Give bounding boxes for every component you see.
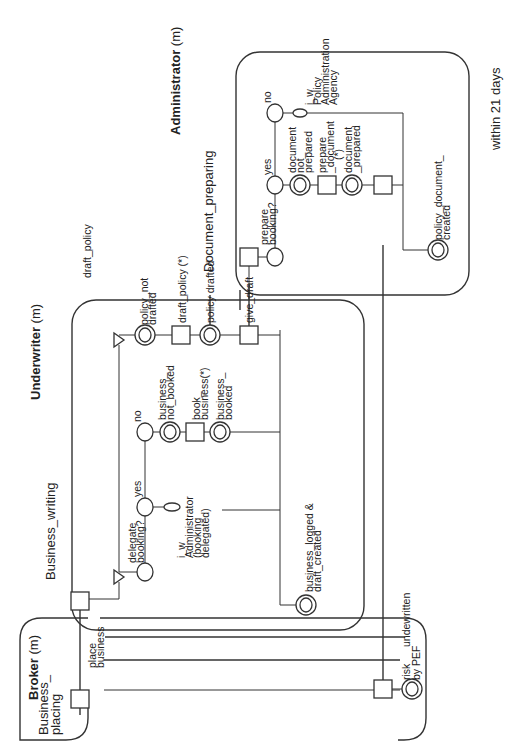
labels: Business_ placing Broker (m) place busin… (26, 27, 503, 735)
event-inner (300, 598, 312, 612)
give-draft-task[interactable] (240, 326, 258, 344)
draft-policy-label: draft_policy (*) (176, 255, 188, 323)
risk-label-2: by PEF (410, 646, 422, 680)
admin-iw-4: Agency (327, 69, 339, 105)
place-business-label-2: business (94, 627, 106, 668)
event-inner (204, 328, 216, 342)
pdc-2: created (440, 205, 452, 240)
bnb-2: not_booked (164, 365, 176, 420)
no-gateway[interactable] (137, 423, 153, 441)
prepare-2: booking? (266, 202, 278, 245)
delegate-label-2: booking? (134, 520, 146, 563)
dnp-3: prepared (302, 131, 314, 173)
risk-underwritten-event-inner (406, 682, 418, 696)
iw-policy-agency-event[interactable] (293, 109, 307, 117)
place-business-task[interactable] (71, 690, 89, 708)
place-business-task-2[interactable] (71, 592, 89, 610)
give-draft-label: give_draft (243, 277, 255, 323)
broker-role-title: Broker (m) (26, 635, 41, 700)
event-inner (214, 425, 226, 439)
admin-yes-label: yes (261, 159, 273, 175)
event-inner (294, 178, 306, 192)
dp-2: _prepared (350, 125, 362, 174)
admin-no-gateway[interactable] (267, 104, 283, 122)
iw-administrator-event[interactable] (164, 503, 180, 511)
event-inner (432, 243, 444, 257)
uw-yes-label: yes (131, 481, 143, 497)
pd-2: _document (324, 121, 336, 174)
pnd-2: drafted (146, 292, 158, 325)
delegate-booking-gateway[interactable] (137, 563, 153, 581)
draft-policy-task[interactable] (172, 326, 190, 344)
bldc-2: draft_created (311, 530, 323, 592)
book-2: business(*) (198, 367, 210, 420)
uw-iw-4: delegated) (199, 508, 211, 558)
diagram-title: draft_policy (81, 224, 93, 278)
bb-2: booked (222, 385, 234, 420)
underwriter-process-title: Business_writing (43, 482, 58, 580)
admin-no-label: no (261, 91, 273, 103)
broker-process-line2: placing (48, 694, 63, 735)
underwriter-role-title: Underwriter (m) (28, 304, 43, 400)
book-business-task[interactable] (186, 423, 204, 441)
yes-gateway[interactable] (137, 498, 153, 516)
document-join-task[interactable] (374, 176, 392, 194)
event-inner (164, 425, 176, 439)
admin-yes-gateway[interactable] (267, 176, 283, 194)
timing-label: within 21 days (488, 67, 503, 151)
prepare-booking-task[interactable] (240, 248, 258, 266)
prepare-document-task[interactable] (318, 176, 336, 194)
event-inner (139, 328, 151, 342)
administrator-role-title: Administrator (m) (168, 27, 183, 135)
event-inner (346, 178, 358, 192)
prepare-booking-gateway[interactable] (267, 248, 283, 266)
risk-label-3: undewritten (400, 593, 412, 647)
uw-no-label: no (131, 410, 143, 422)
process-diagram: Business_ placing Broker (m) place busin… (0, 0, 525, 755)
administrator-process-title: Document_preparing (201, 151, 216, 272)
risk-underwritten-task[interactable] (374, 680, 392, 698)
